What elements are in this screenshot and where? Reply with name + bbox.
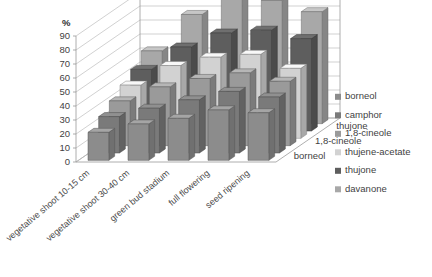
legend-swatch — [335, 186, 341, 192]
bars-layer — [88, 0, 328, 160]
chart-container: 0102030405060708090 vegetative shoot 10-… — [0, 0, 432, 277]
legend-item-thujene-acetate[interactable]: thujene-acetate — [335, 146, 411, 157]
legend-swatch — [335, 149, 341, 155]
legend-label: davanone — [345, 183, 387, 194]
y-axis-ticks: 0102030405060708090 — [59, 30, 76, 167]
y-tick-label: 0 — [65, 156, 70, 167]
y-tick-label: 70 — [59, 58, 70, 69]
y-tick-label: 80 — [59, 44, 70, 55]
depth-axis-label: borneol — [294, 150, 326, 161]
x-axis-labels: vegetative shoot 10-15 cmvegetative shoo… — [4, 168, 251, 244]
legend-label: thujene-acetate — [345, 146, 411, 157]
bar-borneol-4 — [248, 109, 275, 161]
bar-borneol-1 — [128, 120, 155, 160]
y-axis-unit-label: % — [62, 17, 71, 28]
legend-swatch — [335, 94, 341, 100]
legend-item-davanone[interactable]: davanone — [335, 183, 387, 194]
legend-label: 1,8-cineole — [345, 127, 391, 138]
bar-borneol-3 — [208, 106, 235, 160]
legend-item-thujone[interactable]: thujone — [335, 164, 376, 175]
bar-borneol-2 — [168, 114, 195, 160]
legend-swatch — [335, 112, 341, 118]
legend-label: thujone — [345, 164, 376, 175]
y-tick-label: 50 — [59, 86, 70, 97]
legend-item-borneol[interactable]: borneol — [335, 90, 377, 101]
x-axis-category-label: seed ripening — [203, 168, 251, 210]
y-tick-label: 30 — [59, 114, 70, 125]
legend-label: borneol — [345, 90, 377, 101]
y-tick-label: 40 — [59, 100, 70, 111]
y-tick-label: 90 — [59, 30, 70, 41]
bar-borneol-0 — [88, 128, 115, 160]
legend-label: camphor — [345, 109, 382, 120]
legend-swatch — [335, 168, 341, 174]
legend-swatch — [335, 131, 341, 137]
y-tick-label: 20 — [59, 128, 70, 139]
bar-chart-3d: 0102030405060708090 vegetative shoot 10-… — [0, 0, 432, 277]
y-tick-label: 10 — [59, 142, 70, 153]
legend-item-camphor[interactable]: camphor — [335, 109, 382, 120]
x-axis-category-label: vegetative shoot 30-40 cm — [44, 168, 131, 244]
y-tick-label: 60 — [59, 72, 70, 83]
